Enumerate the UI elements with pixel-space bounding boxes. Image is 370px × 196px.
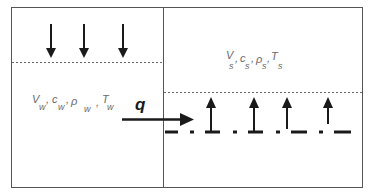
svg-text:s: s: [245, 61, 250, 71]
heat-flux-label: q: [135, 95, 146, 114]
up-arrows: [206, 97, 333, 131]
water-properties-label: V w , c w , ρ w , T w: [32, 93, 114, 114]
svg-text:,: ,: [66, 93, 69, 105]
svg-text:w: w: [58, 102, 65, 112]
heat-transfer-diagram: q V w , c w , ρ w , T w V s , c s , ρ s …: [0, 0, 370, 196]
svg-text:,: ,: [251, 52, 254, 64]
solid-properties-label: V s , c s , ρ s , T s: [226, 49, 283, 71]
svg-text:,: ,: [267, 52, 270, 64]
down-arrows: [46, 24, 128, 58]
svg-text:w: w: [107, 102, 114, 112]
svg-text:,: ,: [46, 93, 49, 105]
svg-text:ρ: ρ: [70, 95, 77, 107]
svg-text:,: ,: [96, 96, 99, 108]
svg-text:s: s: [278, 61, 283, 71]
svg-text:,: ,: [235, 52, 238, 64]
svg-text:s: s: [229, 61, 234, 71]
svg-text:w: w: [84, 104, 91, 114]
svg-text:w: w: [39, 102, 46, 112]
heat-flux-arrow: [122, 113, 194, 126]
outer-frame: [12, 8, 363, 188]
svg-text:V: V: [226, 49, 235, 61]
